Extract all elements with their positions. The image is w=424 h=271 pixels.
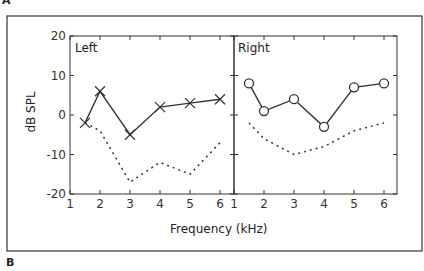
baseline-line: [249, 123, 384, 155]
x-axis-label: Frequency (kHz): [170, 222, 267, 236]
circle-marker: [350, 83, 359, 92]
panel-title-left: Left: [75, 41, 98, 55]
circle-marker: [290, 95, 299, 104]
x-tick-label: 2: [260, 197, 268, 211]
x-tick-label: 6: [216, 197, 224, 211]
circle-marker: [245, 79, 254, 88]
x-tick-label: 3: [290, 197, 298, 211]
x-tick-label: 1: [230, 197, 238, 211]
y-axis-label: dB SPL: [24, 91, 38, 132]
figure-frame: [7, 16, 422, 251]
x-tick-label: 4: [156, 197, 164, 211]
circle-marker: [380, 79, 389, 88]
y-tick-label: 0: [58, 108, 66, 122]
x-tick-label: 5: [186, 197, 194, 211]
x-tick-label: 3: [126, 197, 134, 211]
y-tick-label: 20: [51, 29, 66, 43]
measured-line: [249, 83, 384, 126]
panel-title-right: Right: [238, 41, 270, 55]
circle-marker: [260, 107, 269, 116]
x-tick-label: 1: [66, 197, 74, 211]
x-tick-label: 6: [380, 197, 388, 211]
x-tick-label: 2: [96, 197, 104, 211]
circle-marker: [320, 122, 329, 131]
y-tick-label: -20: [46, 187, 66, 201]
baseline-line: [85, 123, 220, 182]
y-tick-label: -10: [46, 148, 66, 162]
x-tick-label: 5: [350, 197, 358, 211]
panel-frame: [234, 36, 397, 194]
measured-line: [85, 91, 220, 134]
x-tick-label: 4: [320, 197, 328, 211]
y-tick-label: 10: [51, 69, 66, 83]
